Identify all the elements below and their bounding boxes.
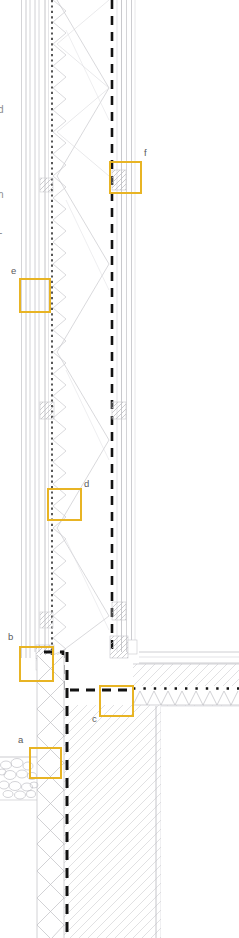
- floor-insulation-band: [133, 691, 239, 705]
- section-drawing-canvas: [0, 0, 239, 938]
- wall-section-detail-drawing: abcdef dn-: [0, 0, 239, 938]
- callout-label-b: b: [8, 632, 13, 642]
- callout-label-f: f: [144, 148, 147, 158]
- edge-text-fragment-2: -: [0, 228, 2, 238]
- exterior-wall-assembly: [22, 0, 136, 658]
- edge-text-fragment-1: n: [0, 190, 4, 200]
- callout-label-d: d: [84, 479, 89, 489]
- callout-label-a: a: [18, 735, 23, 745]
- internal-lining-layers: [117, 0, 135, 652]
- outer-cladding-layers: [22, 0, 49, 658]
- callout-label-e: e: [11, 266, 16, 276]
- edge-text-fragment-0: d: [0, 105, 4, 115]
- wall-insulation-core: [53, 0, 110, 655]
- callout-label-c: c: [92, 714, 97, 724]
